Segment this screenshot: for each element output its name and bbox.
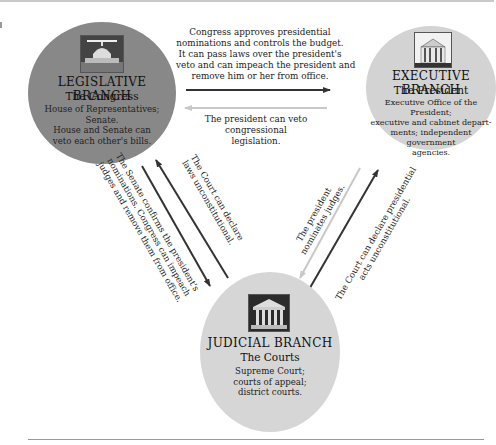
capitol-building-icon <box>80 35 124 73</box>
legislative-subtitle: The Congress <box>28 90 176 102</box>
executive-branch-node: EXECUTIVE BRANCH The President Executive… <box>366 26 496 150</box>
label-exe-to-leg: The president can veto congressional leg… <box>196 114 316 147</box>
legislative-description: House of Representatives; Senate. House … <box>28 104 176 146</box>
judicial-title: JUDICIAL BRANCH <box>200 336 340 350</box>
executive-description: Executive Office of the President; execu… <box>366 98 496 158</box>
label-leg-to-exe: Congress approves presidential nominatio… <box>176 27 344 82</box>
judicial-description: Supreme Court; courts of appeal; distric… <box>200 366 340 398</box>
executive-subtitle: The President <box>366 84 496 96</box>
legislative-branch-node: LEGISLATIVE BRANCH The Congress House of… <box>28 22 176 164</box>
supreme-court-icon <box>248 294 290 332</box>
judicial-subtitle: The Courts <box>200 351 340 363</box>
judicial-branch-node: JUDICIAL BRANCH The Courts Supreme Court… <box>200 272 340 432</box>
white-house-icon <box>414 32 452 68</box>
bottom-rule <box>28 439 484 440</box>
